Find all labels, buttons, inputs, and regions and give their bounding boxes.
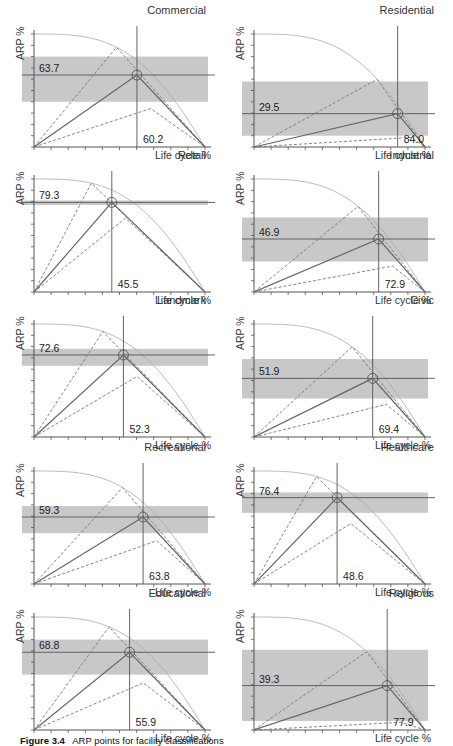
reference-curve — [34, 179, 205, 292]
lifecycle-value-label: 69.4 — [379, 423, 399, 435]
shaded-band — [242, 217, 428, 261]
dashed-lower-path — [254, 404, 425, 437]
dashed-lower-path — [254, 523, 425, 584]
panel-civic: Civic51.969.4Life cycle %ARP % — [220, 290, 446, 436]
panel-title: Landmark — [157, 294, 206, 306]
arp-value-label: 72.6 — [39, 342, 59, 354]
lifecycle-value-label: 52.3 — [129, 423, 149, 435]
chart-svg — [0, 290, 226, 436]
lifecycle-value-label: 77.9 — [393, 716, 413, 728]
dashed-lower-path — [34, 541, 205, 584]
y-axis-label: ARP % — [234, 463, 246, 497]
chart-svg — [220, 290, 446, 436]
chart-svg — [0, 437, 226, 583]
figure-caption: Figure 3.4 ARP points for facility class… — [20, 735, 224, 746]
panel-landmark: Landmark72.652.3Life cycle %ARP % — [0, 290, 226, 436]
arp-value-label: 59.3 — [39, 504, 59, 516]
y-axis-label: ARP % — [14, 26, 26, 60]
reference-curve — [254, 471, 425, 584]
lifecycle-value-label: 48.6 — [343, 570, 363, 582]
solid-arp-path — [34, 355, 205, 437]
chart-svg — [220, 145, 446, 291]
y-axis-label: ARP % — [14, 316, 26, 350]
y-axis-label: ARP % — [234, 26, 246, 60]
panel-retail: Retail79.345.5Life cycle %ARP % — [0, 145, 226, 291]
y-axis-label: ARP % — [14, 171, 26, 205]
y-axis-label: ARP % — [14, 463, 26, 497]
panel-title: Educational — [149, 587, 207, 599]
lifecycle-value-label: 55.9 — [136, 716, 156, 728]
chart-svg — [220, 583, 446, 729]
y-axis-label: ARP % — [14, 609, 26, 643]
arp-value-label: 76.4 — [259, 485, 279, 497]
chart-svg — [0, 0, 226, 146]
chart-svg — [220, 437, 446, 583]
arp-value-label: 29.5 — [259, 101, 279, 113]
arp-value-label: 68.8 — [39, 639, 59, 651]
dashed-upper-path — [34, 488, 205, 584]
reference-curve — [34, 324, 205, 437]
caption-label: Figure 3.4 — [20, 735, 65, 746]
chart-svg — [0, 583, 226, 729]
lifecycle-value-label: 45.5 — [118, 278, 138, 290]
lifecycle-value-label: 63.8 — [149, 570, 169, 582]
arp-value-label: 79.3 — [39, 189, 59, 201]
panel-title: Civic — [410, 294, 434, 306]
panel-commercial: Commercial63.760.2Life cycle %ARP % — [0, 0, 226, 146]
y-axis-label: ARP % — [234, 609, 246, 643]
chart-svg — [0, 145, 226, 291]
dashed-upper-path — [34, 332, 205, 437]
panel-title: Commercial — [147, 4, 206, 16]
arp-value-label: 63.7 — [39, 62, 59, 74]
y-axis-label: ARP % — [234, 316, 246, 350]
panel-title: Healthcare — [381, 441, 434, 453]
dashed-lower-path — [34, 376, 205, 437]
x-axis-label: Life cycle % — [375, 732, 431, 744]
caption-text: ARP points for facility classifications — [72, 735, 223, 746]
panel-healthcare: Healthcare76.448.6Life cycle %ARP % — [220, 437, 446, 583]
panel-recreational: Recreational59.363.8Life cycle %ARP % — [0, 437, 226, 583]
panel-title: Industrial — [389, 149, 434, 161]
panel-religious: Religious39.377.9Life cycle %ARP % — [220, 583, 446, 729]
dashed-upper-path — [34, 183, 205, 292]
y-axis-label: ARP % — [234, 171, 246, 205]
panel-title: Residential — [380, 4, 434, 16]
panel-title: Religious — [389, 587, 434, 599]
panel-educational: Educational68.855.9Life cycle %ARP % — [0, 583, 226, 729]
lifecycle-value-label: 72.9 — [385, 278, 405, 290]
arp-value-label: 51.9 — [259, 365, 279, 377]
dashed-lower-path — [34, 109, 205, 147]
panel-title: Recreational — [144, 441, 206, 453]
panel-residential: Residential29.584.0Life cycle %ARP % — [220, 0, 446, 146]
chart-svg — [220, 0, 446, 146]
lifecycle-value-label: 84.0 — [404, 133, 424, 145]
arp-value-label: 39.3 — [259, 673, 279, 685]
panel-title: Retail — [178, 149, 206, 161]
lifecycle-value-label: 60.2 — [143, 133, 163, 145]
arp-value-label: 46.9 — [259, 226, 279, 238]
panel-industrial: Industrial46.972.9Life cycle %ARP % — [220, 145, 446, 291]
